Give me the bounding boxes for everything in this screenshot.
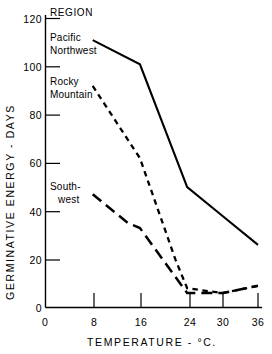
y-tick-label-0: 0 xyxy=(36,302,42,314)
y-tick-label-120: 120 xyxy=(23,13,42,25)
series-layer xyxy=(93,40,258,293)
x-tick-label-36: 36 xyxy=(252,316,264,328)
legend-label-rocky-mountain-line1: Rocky xyxy=(50,76,79,87)
legend-label-rocky-mountain-line2: Mountain xyxy=(50,89,93,100)
legend-label-southwest-line2: west xyxy=(57,194,79,205)
y-axis-tick-labels: 120 100 80 60 40 20 0 xyxy=(23,13,42,314)
y-tick-label-20: 20 xyxy=(30,254,42,266)
x-tick-label-30: 30 xyxy=(217,316,229,328)
axes xyxy=(46,15,263,308)
legend-title: REGION xyxy=(50,7,93,18)
x-axis-title: TEMPERATURE - °C. xyxy=(87,336,217,348)
legend-label-southwest-line1: South- xyxy=(50,181,81,192)
y-axis-title: GERMINATIVE ENERGY - DAYS xyxy=(4,104,16,300)
series-line-rocky-mountain xyxy=(93,86,258,293)
line-chart: 120 100 80 60 40 20 0 0 8 16 24 30 36 TE… xyxy=(0,0,272,354)
legend-label-pacific-northwest-line1: Pacific xyxy=(50,32,81,43)
legend-item-rocky-mountain: Rocky Mountain xyxy=(50,76,93,100)
legend-label-pacific-northwest-line2: Northwest xyxy=(50,45,97,56)
legend-item-pacific-northwest: Pacific Northwest xyxy=(50,32,97,56)
x-tick-label-24: 24 xyxy=(184,316,196,328)
y-tick-label-60: 60 xyxy=(30,157,42,169)
series-line-southwest xyxy=(93,194,258,293)
y-tick-label-80: 80 xyxy=(30,109,42,121)
x-tick-label-8: 8 xyxy=(91,316,97,328)
x-axis-tick-labels: 0 8 16 24 30 36 xyxy=(42,316,264,328)
y-tick-label-40: 40 xyxy=(30,206,42,218)
series-line-pacific-northwest xyxy=(93,40,258,245)
x-tick-label-0: 0 xyxy=(42,316,48,328)
legend-item-southwest: South- west xyxy=(50,181,81,205)
x-tick-label-16: 16 xyxy=(135,316,147,328)
x-axis-ticks xyxy=(94,293,258,308)
y-tick-label-100: 100 xyxy=(23,61,42,73)
chart-container: 120 100 80 60 40 20 0 0 8 16 24 30 36 TE… xyxy=(0,0,272,354)
legend: REGION Pacific Northwest Rocky Mountain … xyxy=(50,7,97,205)
